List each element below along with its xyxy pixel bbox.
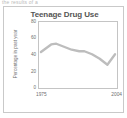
clipped-header-text: the results of a xyxy=(0,0,127,5)
y-tick-label: 20 xyxy=(22,69,36,74)
y-tick-label: 80 xyxy=(22,19,36,24)
screenshot-root: the results of a Teenage Drug Use Percen… xyxy=(0,0,127,118)
plot-area xyxy=(38,21,118,89)
x-tick-label-start: 1975 xyxy=(36,92,47,98)
x-tick-label-end: 2004 xyxy=(111,92,122,98)
data-series-line xyxy=(41,44,115,65)
y-axis-tick-labels: 80 60 40 20 0 xyxy=(22,21,36,89)
y-tick-label: 0 xyxy=(22,85,36,90)
chart-card: Teenage Drug Use Percentage in past year… xyxy=(3,6,124,113)
line-chart-svg xyxy=(39,22,117,88)
y-axis-label: Percentage in past year xyxy=(13,26,19,82)
y-tick-label: 60 xyxy=(22,35,36,40)
x-axis-tick-labels: 1975 2004 xyxy=(34,92,124,100)
y-tick-label: 40 xyxy=(22,52,36,57)
